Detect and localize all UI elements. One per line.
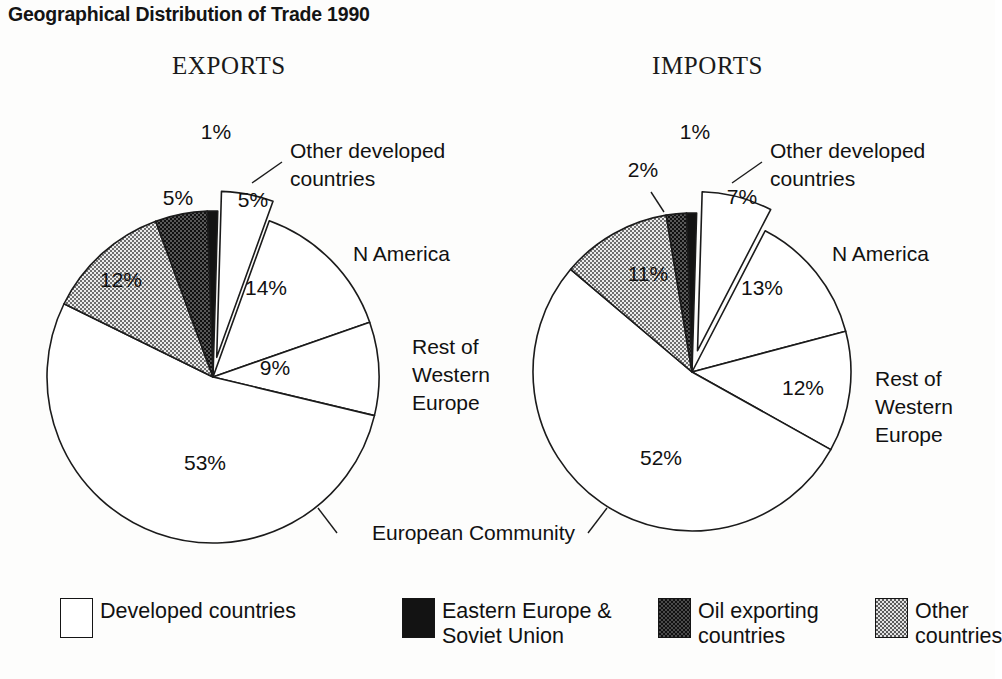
leader-european-community-exports <box>318 508 337 533</box>
imports-pct-oil-exporting: 2% <box>628 158 658 181</box>
legend-swatch-other-countries <box>875 598 908 638</box>
exports-label-rest-w-europe-3: Europe <box>412 391 480 414</box>
exports-pie <box>47 191 379 543</box>
imports-pie <box>533 192 851 531</box>
exports-label-n-america: N America <box>353 242 450 265</box>
imports-pct-other-developed: 7% <box>727 185 757 208</box>
imports-label-rest-w-europe-3: Europe <box>875 423 943 446</box>
legend-swatch-oil-exporting-countries <box>658 598 691 638</box>
chart-legend: Developed countries Eastern Europe & Sov… <box>60 596 985 668</box>
legend-label-developed-countries: Developed countries <box>100 598 296 624</box>
exports-label-other-developed-2: countries <box>290 167 375 190</box>
leader-oil-exporting-imports <box>651 192 664 212</box>
legend-label-eastern-europe-soviet-union: Eastern Europe & Soviet Union <box>442 598 612 649</box>
legend-item-developed-countries[interactable]: Developed countries <box>60 598 296 638</box>
exports-pct-other-countries: 12% <box>100 268 142 291</box>
exports-pct-oil-exporting: 5% <box>163 186 193 209</box>
imports-pct-n-america: 13% <box>741 276 783 299</box>
legend-swatch-eastern-europe-soviet-union <box>402 598 435 638</box>
leader-european-community-imports <box>588 508 607 533</box>
legend-label-other-countries: Other countries <box>915 598 1002 649</box>
exports-pct-european-community: 53% <box>184 451 226 474</box>
imports-pct-other-countries: 11% <box>628 262 668 285</box>
exports-label-rest-w-europe-2: Western <box>412 363 490 386</box>
exports-pct-eastern-europe: 1% <box>201 120 231 143</box>
imports-label-n-america: N America <box>832 242 929 265</box>
imports-pct-eastern-europe: 1% <box>680 120 710 143</box>
label-european-community: European Community <box>372 521 576 544</box>
imports-pct-rest-western-europe: 12% <box>782 376 824 399</box>
exports-label-rest-w-europe-1: Rest of <box>412 335 479 358</box>
legend-label-oil-exporting-countries: Oil exporting countries <box>698 598 819 649</box>
legend-item-oil-exporting-countries[interactable]: Oil exporting countries <box>658 598 819 649</box>
imports-label-rest-w-europe-2: Western <box>875 395 953 418</box>
imports-label-other-developed-1: Other developed <box>770 139 925 162</box>
exports-pct-other-developed: 5% <box>238 188 268 211</box>
imports-pct-european-community: 52% <box>640 446 682 469</box>
exports-pct-rest-western-europe: 9% <box>260 356 290 379</box>
leader-other-developed-exports <box>252 162 282 183</box>
imports-label-rest-w-europe-1: Rest of <box>875 367 942 390</box>
legend-item-eastern-europe-soviet-union[interactable]: Eastern Europe & Soviet Union <box>402 598 612 649</box>
exports-label-other-developed-1: Other developed <box>290 139 445 162</box>
legend-item-other-countries[interactable]: Other countries <box>875 598 1002 649</box>
imports-label-other-developed-2: countries <box>770 167 855 190</box>
leader-other-developed-imports <box>732 162 762 183</box>
legend-swatch-developed-countries <box>60 598 93 638</box>
exports-pct-n-america: 14% <box>245 276 287 299</box>
